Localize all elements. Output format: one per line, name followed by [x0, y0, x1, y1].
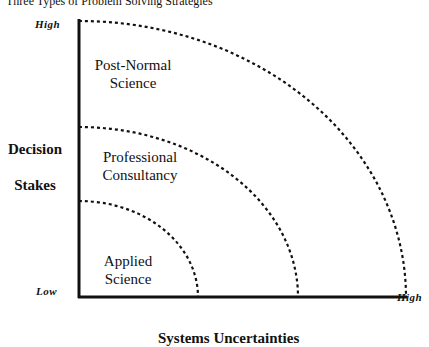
region-professional-consultancy: Professional Consultancy [90, 148, 190, 184]
region-applied-science: Applied Science [96, 252, 160, 288]
y-axis-label-stakes: Stakes [0, 177, 70, 194]
region-post-normal-science: Post-Normal Science [88, 56, 178, 92]
y-axis-high-label: High [35, 18, 60, 30]
region-label-line1: Professional [90, 148, 190, 166]
region-label-line2: Science [96, 270, 160, 288]
origin-low-label: Low [36, 285, 57, 297]
region-label-line1: Applied [96, 252, 160, 270]
x-axis-high-label: High [397, 291, 422, 303]
region-label-line2: Science [88, 74, 178, 92]
region-label-line2: Consultancy [90, 166, 190, 184]
region-label-line1: Post-Normal [88, 56, 178, 74]
x-axis-label: Systems Uncertainties [158, 330, 299, 347]
y-axis-label-decision: Decision [0, 141, 70, 158]
